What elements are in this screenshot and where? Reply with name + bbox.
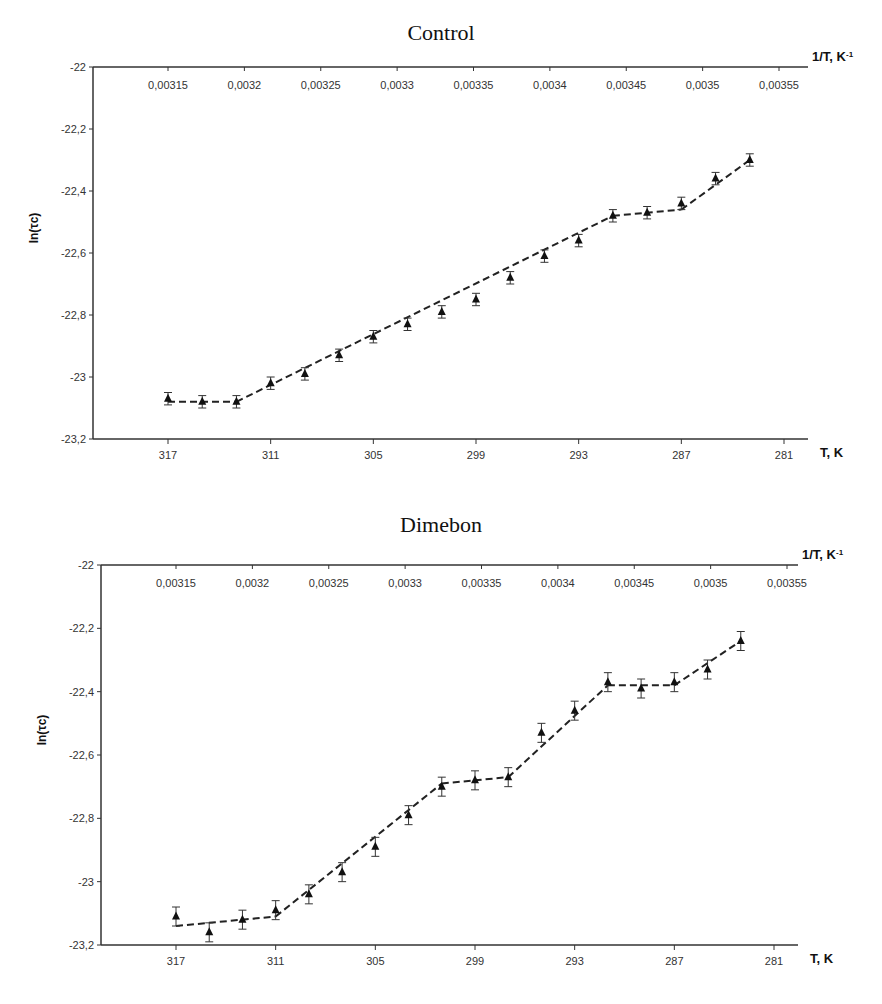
t-tick-label: 317	[167, 955, 185, 967]
inv-t-tick-label: 0,00315	[148, 79, 188, 91]
triangle-marker-icon	[712, 174, 720, 182]
control-chart: Control-22-22,2-22,4-22,6-22,8-23-23,20,…	[0, 0, 882, 490]
triangle-marker-icon	[575, 236, 583, 244]
inv-t-tick-label: 0,00345	[606, 79, 646, 91]
inv-t-tick-label: 0,00335	[462, 577, 502, 589]
inv-t-tick-label: 0,00325	[309, 577, 349, 589]
triangle-marker-icon	[604, 677, 612, 685]
inv-t-tick-label: 0,00315	[156, 577, 196, 589]
chart-title: Control	[407, 20, 474, 45]
y-tick-label: -22	[70, 61, 86, 73]
y-tick-label: -23,2	[61, 433, 86, 445]
y-tick-label: -22,8	[61, 309, 86, 321]
triangle-marker-icon	[205, 927, 213, 935]
y-tick-label: -23	[78, 876, 94, 888]
t-tick-label: 293	[565, 955, 583, 967]
inv-t-axis-label: 1/T, K-1	[802, 547, 844, 562]
t-tick-label: 281	[765, 955, 783, 967]
dimebon-chart: Dimebon-22-22,2-22,4-22,6-22,8-23-23,20,…	[0, 490, 882, 1004]
fit-line	[176, 917, 276, 927]
y-axis-label: ln(τc)	[35, 715, 49, 746]
inv-t-tick-label: 0,0034	[533, 79, 567, 91]
inv-t-tick-label: 0,0035	[694, 577, 728, 589]
inv-t-tick-label: 0,0033	[388, 577, 422, 589]
triangle-marker-icon	[746, 155, 754, 163]
y-tick-label: -22,4	[69, 686, 94, 698]
inv-t-tick-label: 0,0033	[380, 79, 414, 91]
inv-t-tick-label: 0,00345	[614, 577, 654, 589]
t-tick-label: 317	[159, 449, 177, 461]
inv-t-tick-label: 0,00355	[767, 577, 807, 589]
y-tick-label: -22,2	[69, 622, 94, 634]
t-tick-label: 311	[267, 955, 285, 967]
y-tick-label: -22,8	[69, 812, 94, 824]
y-tick-label: -23	[70, 371, 86, 383]
t-axis-label: T, K	[810, 951, 834, 966]
chart-title: Dimebon	[400, 512, 482, 537]
fit-line	[508, 685, 608, 777]
triangle-marker-icon	[371, 842, 379, 850]
t-tick-label: 305	[366, 955, 384, 967]
t-tick-label: 299	[466, 955, 484, 967]
t-tick-label: 281	[775, 449, 793, 461]
fit-line	[236, 216, 612, 402]
inv-t-tick-label: 0,0032	[228, 79, 262, 91]
triangle-marker-icon	[172, 912, 180, 920]
y-tick-label: -22,6	[61, 247, 86, 259]
triangle-marker-icon	[677, 198, 685, 206]
t-tick-label: 287	[665, 955, 683, 967]
triangle-marker-icon	[267, 378, 275, 386]
t-axis-label: T, K	[820, 445, 844, 460]
inv-t-tick-label: 0,00355	[759, 79, 799, 91]
inv-t-tick-label: 0,0035	[686, 79, 720, 91]
y-axis-label: ln(τc)	[27, 213, 41, 244]
triangle-marker-icon	[164, 394, 172, 402]
y-tick-label: -22,4	[61, 185, 86, 197]
triangle-marker-icon	[506, 273, 514, 281]
y-tick-label: -23,2	[69, 939, 94, 951]
t-tick-label: 287	[672, 449, 690, 461]
triangle-marker-icon	[272, 905, 280, 913]
triangle-marker-icon	[404, 319, 412, 327]
t-tick-label: 299	[467, 449, 485, 461]
inv-t-tick-label: 0,0032	[236, 577, 270, 589]
fit-line	[276, 784, 442, 917]
triangle-marker-icon	[537, 728, 545, 736]
inv-t-tick-label: 0,0034	[541, 577, 575, 589]
y-tick-label: -22,2	[61, 123, 86, 135]
triangle-marker-icon	[737, 636, 745, 644]
t-tick-label: 311	[262, 449, 280, 461]
t-tick-label: 293	[569, 449, 587, 461]
triangle-marker-icon	[670, 677, 678, 685]
inv-t-axis-label: 1/T, K-1	[812, 49, 854, 64]
inv-t-tick-label: 0,00325	[301, 79, 341, 91]
triangle-marker-icon	[540, 251, 548, 259]
triangle-marker-icon	[472, 295, 480, 303]
inv-t-tick-label: 0,00335	[454, 79, 494, 91]
y-tick-label: -22	[78, 559, 94, 571]
t-tick-label: 305	[364, 449, 382, 461]
y-tick-label: -22,6	[69, 749, 94, 761]
triangle-marker-icon	[338, 867, 346, 875]
triangle-marker-icon	[438, 307, 446, 315]
triangle-marker-icon	[571, 706, 579, 714]
